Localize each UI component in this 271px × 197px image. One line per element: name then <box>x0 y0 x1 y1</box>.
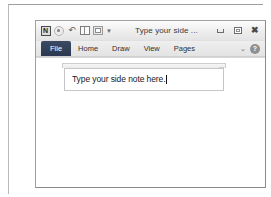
ribbon-right-controls: ⌄ ? <box>240 41 265 56</box>
note-input-area[interactable]: Type your side note here. <box>64 68 224 91</box>
minimize-button[interactable] <box>215 26 226 35</box>
window-controls[interactable]: ✖ <box>215 26 262 35</box>
dock-panel-shape <box>93 26 103 35</box>
restore-button[interactable] <box>232 26 243 35</box>
split-panel-icon[interactable] <box>79 25 90 36</box>
quick-access-toolbar[interactable]: N ↷ ▼ <box>40 25 112 36</box>
application-window: N ↷ ▼ Type your side ... <box>35 20 266 188</box>
split-panel-shape <box>80 26 90 35</box>
minimize-icon <box>217 29 224 33</box>
tab-pages[interactable]: Pages <box>167 41 202 56</box>
note-text: Type your side note here. <box>72 75 165 84</box>
tab-strip-spacer <box>202 41 240 56</box>
dock-panel-icon[interactable] <box>92 25 103 36</box>
restore-icon <box>234 27 242 34</box>
tab-file[interactable]: File <box>41 41 71 56</box>
ribbon-tab-strip: File Home Draw View Pages ⌄ ? <box>36 41 265 57</box>
tab-draw[interactable]: Draw <box>105 41 137 56</box>
back-circle-icon[interactable] <box>53 25 64 36</box>
close-button[interactable]: ✖ <box>249 26 260 35</box>
undo-arrow-glyph: ↷ <box>68 26 76 35</box>
page-canvas[interactable]: ⋯ Type your side note here. <box>36 57 265 187</box>
close-icon: ✖ <box>251 26 259 35</box>
text-caret <box>166 75 167 84</box>
app-logo-icon[interactable]: N <box>40 25 51 36</box>
help-icon[interactable]: ? <box>250 44 260 54</box>
app-logo-letter: N <box>41 26 51 36</box>
back-circle-shape <box>54 26 64 36</box>
title-bar[interactable]: N ↷ ▼ Type your side ... <box>36 21 265 41</box>
side-note-box[interactable]: ⋯ Type your side note here. <box>64 63 224 91</box>
tab-home[interactable]: Home <box>71 41 105 56</box>
undo-icon[interactable]: ↷ <box>66 25 77 36</box>
figure-frame: N ↷ ▼ Type your side ... <box>8 4 263 194</box>
tab-view[interactable]: View <box>137 41 167 56</box>
chevron-down-icon[interactable]: ⌄ <box>240 45 246 52</box>
window-title: Type your side ... <box>112 26 215 35</box>
